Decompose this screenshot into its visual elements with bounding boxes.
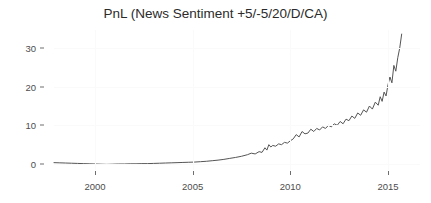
y-axis-tick-mark bbox=[40, 125, 44, 126]
gridline-horizontal bbox=[54, 164, 420, 165]
x-axis-tick-label: 2005 bbox=[182, 181, 203, 192]
pnl-line-series bbox=[54, 30, 420, 170]
gridline-vertical bbox=[95, 30, 96, 170]
chart-title: PnL (News Sentiment +5/-5/20/D/CA) bbox=[0, 6, 431, 21]
y-axis-tick-label: 30 bbox=[25, 43, 36, 54]
gridline-horizontal bbox=[54, 87, 420, 88]
y-axis-tick-label: 20 bbox=[25, 81, 36, 92]
gridline-vertical bbox=[388, 30, 389, 170]
y-axis-tick-label: 10 bbox=[25, 120, 36, 131]
pnl-line bbox=[54, 34, 402, 164]
x-axis-tick-mark bbox=[193, 171, 194, 175]
gridline-vertical bbox=[193, 30, 194, 170]
gridline-vertical bbox=[290, 30, 291, 170]
y-axis-tick-label: 0 bbox=[31, 159, 36, 170]
y-axis-tick-mark bbox=[40, 86, 44, 87]
gridline-horizontal bbox=[54, 125, 420, 126]
x-axis-tick-mark bbox=[95, 171, 96, 175]
x-axis-tick-mark bbox=[290, 171, 291, 175]
plot-area bbox=[54, 30, 420, 170]
x-axis-tick-mark bbox=[388, 171, 389, 175]
x-axis-tick-label: 2000 bbox=[84, 181, 105, 192]
x-axis-tick-label: 2015 bbox=[377, 181, 398, 192]
x-axis-tick-label: 2010 bbox=[280, 181, 301, 192]
chart-root: PnL (News Sentiment +5/-5/20/D/CA) 01020… bbox=[0, 0, 431, 203]
y-axis-tick-mark bbox=[40, 48, 44, 49]
y-axis-tick-mark bbox=[40, 164, 44, 165]
gridline-horizontal bbox=[54, 48, 420, 49]
